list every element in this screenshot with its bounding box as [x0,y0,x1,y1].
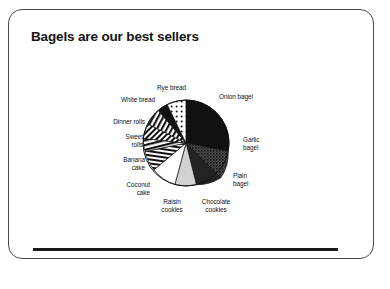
pie-chart-svg [0,0,390,289]
pie-slice-onion-bagel[interactable] [186,100,229,151]
pie-chart: Onion bagel Garlic bagel Plain bagel Cho… [0,0,390,289]
pie-label-onion-bagel: Onion bagel [219,93,253,101]
pie-label-chocolate-cookies: Chocolate cookies [193,198,239,213]
pie-label-sweet-rolls: Sweet rolls [107,133,143,148]
bottom-rule [33,248,338,251]
pie-label-garlic-bagel: Garlic bagel [243,136,259,151]
pie-label-coconut-cake: Coconut cake [106,181,150,196]
pie-label-plain-bagel: Plain bagel [233,172,248,187]
pie-label-banana-cake: Banana cake [103,156,145,171]
pie-label-raisin-cookies: Raisin cookies [152,198,192,213]
pie-label-dinner-rolls: Dinner rolls [97,118,145,126]
pie-label-rye-bread: Rye bread [138,84,186,92]
pie-label-white-bread: White bread [107,96,155,104]
